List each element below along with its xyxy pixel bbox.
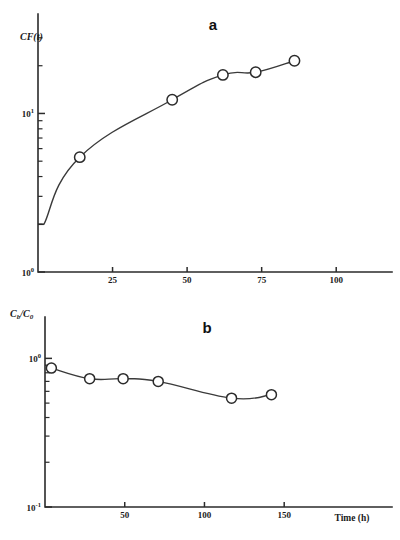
x-tick-label: 75: [257, 275, 267, 285]
panel-a-y-axis-title: CF(t): [20, 31, 43, 43]
panel-a-axes: [38, 14, 392, 272]
y-tick-label: 10-1: [27, 501, 41, 513]
y-tick-label: 100: [22, 266, 34, 278]
panel-b-ticks: [45, 358, 284, 507]
panel-b-svg: 5010015010-1100 Cb/C0 Time (h) b: [0, 295, 400, 540]
data-series-curve: [44, 61, 295, 225]
panel-a-letter: a: [209, 16, 218, 33]
panel-a-tick-labels: 255075100100101: [22, 107, 344, 285]
panel-b-x-axis-title: Time (h): [335, 513, 370, 524]
panel-b-y-axis-title: Cb/C0: [10, 308, 34, 321]
x-tick-label: 100: [329, 275, 343, 285]
data-point-marker: [289, 56, 299, 66]
panel-a-svg: 255075100100101 CF(t) a: [0, 0, 400, 295]
chart-panel-a: 255075100100101 CF(t) a: [0, 0, 400, 295]
data-point-marker: [218, 70, 228, 80]
chart-panel-b: 5010015010-1100 Cb/C0 Time (h) b: [0, 295, 400, 540]
data-point-marker: [153, 376, 163, 386]
panel-a-data-points: [75, 56, 300, 163]
data-point-marker: [85, 374, 95, 384]
data-point-marker: [118, 374, 128, 384]
panel-a-curve: [38, 61, 294, 225]
x-tick-label: 50: [120, 510, 130, 520]
axis-frame: [38, 14, 392, 272]
data-point-marker: [266, 390, 276, 400]
panel-b-data-points: [46, 363, 276, 403]
data-point-marker: [75, 152, 85, 162]
data-point-marker: [227, 393, 237, 403]
figure-container: 255075100100101 CF(t) a 5010015010-1100 …: [0, 0, 400, 540]
y-tick-label: 100: [29, 352, 41, 364]
y-tick-label: 101: [22, 107, 34, 119]
x-tick-label: 100: [198, 510, 212, 520]
panel-b-letter: b: [202, 319, 211, 336]
x-tick-label: 150: [277, 510, 291, 520]
x-tick-label: 25: [108, 275, 118, 285]
data-point-marker: [167, 95, 177, 105]
axis-frame: [45, 317, 392, 507]
data-point-marker: [46, 363, 56, 373]
data-point-marker: [250, 67, 260, 77]
panel-b-axes: [45, 317, 392, 507]
x-tick-label: 50: [183, 275, 193, 285]
